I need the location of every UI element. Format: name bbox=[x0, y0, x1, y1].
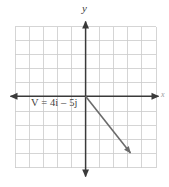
y-axis-label: y bbox=[82, 3, 87, 14]
x-axis-label: x bbox=[161, 91, 165, 99]
vector-equation-label: V = 4i – 5j bbox=[31, 98, 78, 109]
vector-plot-figure: y x V = 4i – 5j bbox=[0, 0, 169, 187]
coordinate-plane-graphic bbox=[0, 0, 169, 187]
vector-arrow-v bbox=[86, 96, 131, 153]
